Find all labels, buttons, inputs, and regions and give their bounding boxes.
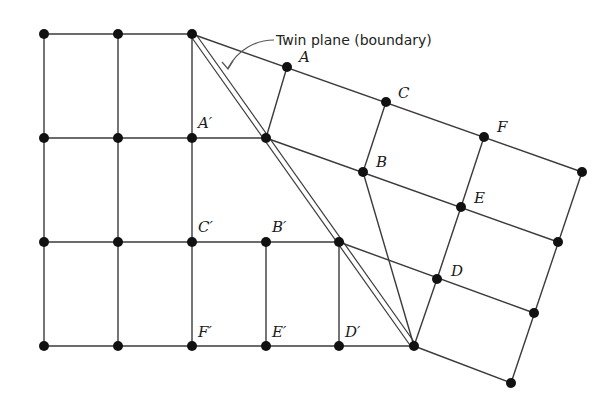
point-label: E′ (271, 323, 287, 341)
lattice-node-F (479, 132, 489, 142)
lattice-node-l21 (113, 237, 123, 247)
lattice-node-B (358, 167, 368, 177)
caption-annotation: Twin plane (boundary) (222, 32, 432, 69)
twin-boundary-diagram: ACFA′BEC′B′DF′E′D′ Twin plane (boundary) (0, 0, 611, 399)
lattice-node-l10 (39, 133, 49, 143)
lattice-node-l23 (261, 237, 271, 247)
lattice-node-r2 (529, 308, 539, 318)
lattice-node-r1 (553, 237, 563, 247)
lattice-node-l02 (187, 29, 197, 39)
edge (266, 67, 287, 138)
point-label: C (398, 84, 410, 102)
lattice-node-l31 (113, 341, 123, 351)
lattice-node-l32 (187, 341, 197, 351)
lattice-node-l11 (113, 133, 123, 143)
edge (266, 138, 558, 242)
point-label: E (473, 189, 485, 207)
point-label: B′ (271, 218, 287, 236)
caption-text: Twin plane (boundary) (275, 32, 432, 48)
lattice-node-t3 (409, 341, 419, 351)
edge (363, 172, 414, 346)
lattice-node-D (432, 274, 442, 284)
edge (511, 172, 582, 383)
point-label: F′ (197, 323, 212, 341)
lattice-node-l00 (39, 29, 49, 39)
point-label: B (375, 153, 387, 171)
point-label: D′ (344, 323, 361, 341)
pointer-arrow (228, 40, 274, 68)
lattice-node-l30 (39, 341, 49, 351)
edge (414, 346, 511, 383)
lattice-node-l34 (334, 341, 344, 351)
lattice-node-r0 (577, 167, 587, 177)
lattice-node-t2 (334, 237, 344, 247)
lattice-node-l20 (39, 237, 49, 247)
lattice-node-A (282, 62, 292, 72)
point-label: C′ (198, 218, 213, 236)
lattice-node-l01 (113, 29, 123, 39)
edge (414, 279, 437, 346)
lattice-node-C (381, 97, 391, 107)
point-label: F (496, 118, 508, 136)
lattice-node-l12 (187, 133, 197, 143)
point-label: D (450, 262, 463, 280)
point-labels: ACFA′BEC′B′DF′E′D′ (196, 48, 508, 341)
twin-plane-boundary (190, 33, 417, 348)
lattice-node-t1 (261, 133, 271, 143)
lattice-node-l22 (187, 237, 197, 247)
point-label: A′ (196, 114, 213, 132)
lattice-node-l33 (261, 341, 271, 351)
point-label: A (297, 48, 310, 66)
lattice-node-E (456, 202, 466, 212)
lattice-node-r3 (506, 378, 516, 388)
